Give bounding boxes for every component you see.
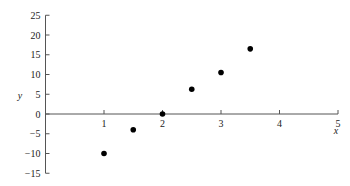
y-tick-label: 5: [36, 89, 41, 100]
data-points: [101, 46, 253, 156]
y-tick-label: 15: [31, 49, 41, 60]
y-axis-label: y: [17, 90, 23, 101]
data-point: [218, 70, 224, 76]
data-point: [101, 151, 107, 157]
y-tick-label: 25: [31, 10, 41, 21]
scatter-chart: −15−10−5051015202512345 x y: [0, 0, 350, 186]
data-point: [247, 46, 253, 52]
x-tick-label: 3: [219, 118, 224, 129]
y-tick-label: 0: [36, 109, 41, 120]
data-point: [130, 127, 136, 133]
data-point: [160, 111, 166, 117]
y-tick-label: −15: [25, 168, 41, 179]
x-tick-label: 1: [102, 118, 107, 129]
y-tick-label: −10: [25, 148, 41, 159]
data-point: [189, 87, 195, 93]
axes: −15−10−5051015202512345: [25, 10, 341, 179]
y-tick-label: 20: [31, 30, 41, 41]
y-tick-label: 10: [31, 69, 41, 80]
x-axis-label: x: [333, 125, 339, 136]
x-tick-label: 4: [277, 118, 282, 129]
y-tick-label: −5: [30, 128, 41, 139]
x-tick-label: 2: [160, 118, 165, 129]
